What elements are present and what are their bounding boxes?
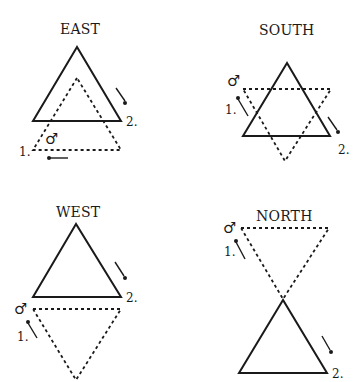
east-title: EAST: [60, 21, 100, 37]
triangle-diagrams: [0, 0, 357, 382]
west-dashed-triangle: [33, 309, 121, 380]
diagram-canvas: EAST ♂ 1. 2. SOUTH ♂ 1. 2. WEST ♂ 1. 2. …: [0, 0, 357, 382]
south-arrow-2-icon: [328, 117, 340, 134]
north-solid-triangle: [239, 300, 327, 373]
east-mars-symbol: ♂: [45, 132, 58, 147]
north-dashed-triangle: [241, 228, 329, 299]
north-title: NORTH: [256, 208, 313, 224]
south-label-1: 1.: [225, 103, 236, 117]
south-label-2: 2.: [338, 143, 349, 157]
east-solid-triangle: [33, 47, 121, 121]
east-label-2: 2.: [126, 115, 137, 129]
north-label-2: 2.: [332, 367, 343, 381]
west-label-2: 2.: [126, 291, 137, 305]
west-mars-symbol: ♂: [14, 302, 27, 317]
south-title: SOUTH: [259, 22, 314, 38]
north-arrow-2-icon: [322, 336, 333, 354]
north-mars-symbol: ♂: [223, 221, 236, 236]
south-arrow-1-icon: [236, 96, 248, 116]
south-solid-triangle: [243, 63, 330, 136]
east-label-1: 1.: [19, 145, 30, 159]
west-panel: [26, 224, 127, 380]
north-label-1: 1.: [224, 245, 235, 259]
east-arrow-1-icon: [47, 156, 68, 160]
west-label-1: 1.: [17, 330, 28, 344]
west-arrow-2-icon: [115, 262, 127, 280]
west-solid-triangle: [33, 224, 121, 297]
west-title: WEST: [56, 204, 100, 220]
south-dashed-triangle: [243, 89, 331, 161]
north-panel: [234, 228, 333, 373]
north-arrow-1-icon: [234, 239, 245, 259]
east-arrow-2-icon: [116, 88, 127, 105]
south-mars-symbol: ♂: [227, 74, 240, 89]
south-panel: [236, 63, 340, 161]
